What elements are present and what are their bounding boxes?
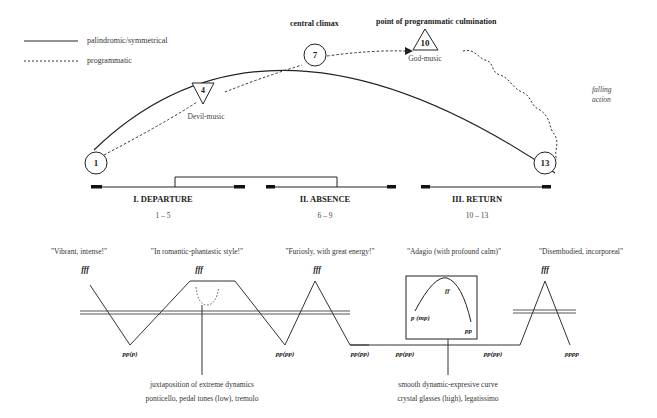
programmatic-path-2: [225, 65, 302, 92]
section-absence-range: 6 – 9: [318, 211, 333, 220]
departure-cap-left: [91, 185, 102, 189]
note-right: smooth dynamic-expresive curve crystal g…: [397, 378, 498, 406]
dynamic-fff-3: fff: [313, 265, 321, 274]
god-music-caption: God-music: [408, 54, 441, 63]
note-left: juxtaposition of extreme dynamics pontic…: [146, 378, 259, 406]
section-departure-title: I. DEPARTURE: [133, 194, 193, 204]
node-4-label: 4: [201, 86, 205, 95]
node-1-label: 1: [94, 158, 99, 168]
return-cap-right: [542, 185, 551, 189]
dynamic-fff-1: fff: [81, 265, 89, 274]
dynamic-low-1: pp(p): [122, 350, 137, 358]
return-cap-left: [421, 185, 430, 189]
quote-disembodied: "Disembodied, incorporeal": [539, 247, 623, 256]
reference-double-line-right: [513, 310, 576, 313]
note-right-line1: smooth dynamic-expresive curve: [397, 378, 498, 392]
dotted-u-curve: [196, 287, 219, 305]
quote-adagio: "Adagio (with profound calm)": [407, 247, 501, 256]
node-7-label: 7: [313, 50, 318, 60]
dynamic-low-6: pppp: [565, 350, 579, 358]
reference-double-line-left: [80, 311, 350, 314]
falling-action-label-2: action: [592, 95, 611, 104]
dynamic-fff-4: fff: [541, 265, 549, 274]
note-right-line2: crystal glasses (high), legatissimo: [397, 392, 498, 406]
departure-cap-right: [234, 185, 245, 189]
dynamic-low-3: pp(pp): [351, 350, 370, 358]
section-departure-range: 1 – 5: [156, 211, 171, 220]
programmatic-path-3: [327, 51, 405, 56]
node-10-label: 10: [421, 38, 430, 48]
dynamic-fff-2: fff: [195, 265, 203, 274]
note-left-line1: juxtaposition of extreme dynamics: [146, 378, 259, 392]
falling-action-path: [463, 50, 557, 160]
adagio-end-dynamic: pp: [465, 327, 472, 335]
note-left-line2: ponticello, pedal tones (low), tremolo: [146, 392, 259, 406]
adagio-peak-dynamic: ff: [445, 287, 450, 295]
dynamic-low-4: pp(pp): [396, 350, 415, 358]
quote-romantic: "In romantic-phantastic style!": [151, 247, 243, 256]
section-return-title: III. RETURN: [452, 194, 502, 204]
dynamics-contour-left: [90, 281, 369, 345]
quote-furiosly: "Furiosly, with great energy!": [285, 247, 374, 256]
adagio-start-dynamic: p (mp): [411, 314, 430, 322]
dynamic-low-2: pp(pp): [276, 350, 295, 358]
falling-action-label-1: falling: [592, 85, 612, 94]
devil-music-caption: Devil-music: [187, 112, 224, 121]
section-return-range: 10 – 13: [466, 211, 489, 220]
palindromic-arc: [94, 70, 555, 173]
central-climax-heading: central climax: [290, 19, 339, 28]
legend-solid-label: palindromic/symmetrical: [87, 36, 167, 45]
section-absence-title: II. ABSENCE: [300, 194, 351, 204]
bridge-bracket: [175, 177, 337, 187]
dynamic-low-5: pp(pp): [484, 350, 503, 358]
absence-cap-left: [266, 185, 275, 189]
programmatic-culmination-heading: point of programmatic culmination: [376, 17, 497, 26]
absence-cap-right: [387, 185, 396, 189]
node-13-label: 13: [541, 158, 550, 168]
legend-dotted-label: programmatic: [87, 56, 132, 65]
quote-vibrant: "Vibrant, intense!": [51, 247, 107, 256]
